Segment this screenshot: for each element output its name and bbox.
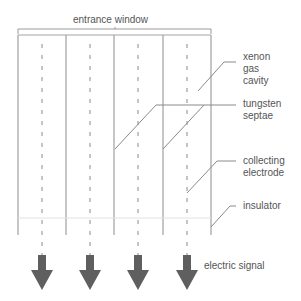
xenon-gas-cavity-label: xenon gas cavity — [243, 51, 270, 87]
leader-lines — [115, 62, 236, 227]
arrow-down-icon — [79, 255, 101, 290]
arrow-down-icon — [31, 255, 53, 290]
tungsten-septae — [18, 35, 211, 235]
collecting-electrode-label: collecting electrode — [243, 155, 285, 179]
electric-signal-label: electric signal — [204, 260, 265, 272]
entrance-window-label: entrance window — [73, 14, 148, 26]
signal-arrows — [31, 255, 198, 290]
detector-diagram — [0, 0, 301, 301]
arrow-down-icon — [176, 255, 198, 290]
insulator-label: insulator — [243, 200, 281, 212]
arrow-down-icon — [127, 255, 149, 290]
entrance-window-bracket — [18, 27, 211, 34]
tungsten-septae-label: tungsten septae — [243, 98, 281, 122]
